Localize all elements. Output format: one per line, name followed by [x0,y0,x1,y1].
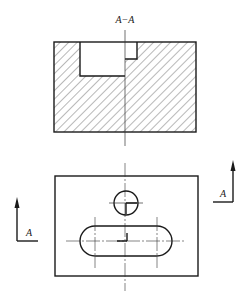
section-title: A−A [115,14,136,25]
slot-center-mark [117,233,127,241]
hole-quarter-mark [126,203,137,214]
engineering-drawing: A−A A A [0,0,250,297]
section-label-right: A [219,188,227,199]
arrow-up-icon [15,197,20,208]
section-marker-left: A [15,197,39,241]
section-label-left: A [25,227,33,238]
section-view [54,30,196,146]
arrow-up-icon [231,160,236,171]
section-marker-right: A [213,160,236,202]
plan-view [55,163,198,291]
